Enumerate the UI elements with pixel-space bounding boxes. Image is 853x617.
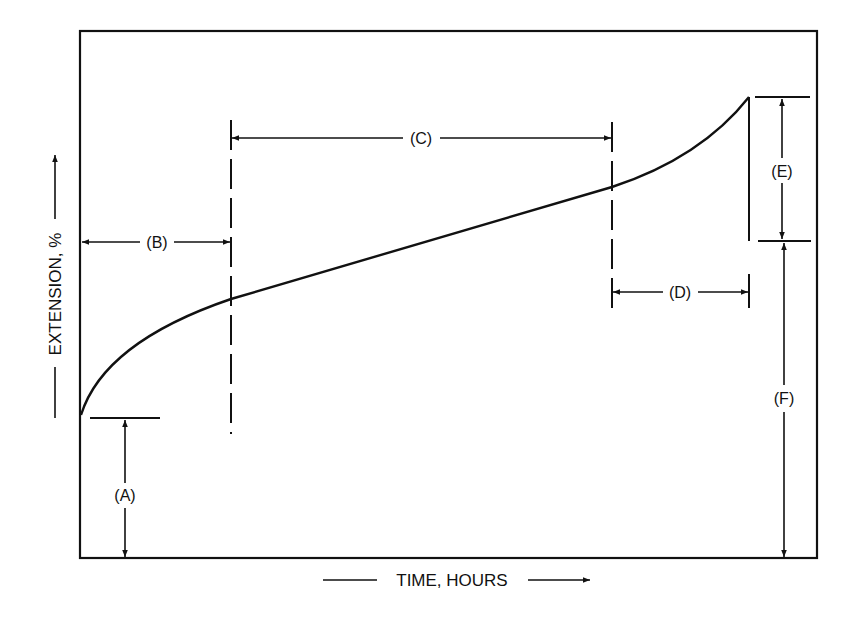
- x-axis-label: TIME, HOURS: [396, 571, 507, 590]
- label-f: (F): [774, 390, 794, 407]
- label-c: (C): [410, 130, 432, 147]
- y-axis-label-group: EXTENSION, %: [46, 155, 65, 418]
- label-e: (E): [771, 163, 792, 180]
- creep-curve-diagram: (A) (B) (C) (D) (E) (F) TIME, HOURS EXTE…: [0, 0, 853, 617]
- label-d: (D): [669, 284, 691, 301]
- label-b: (B): [146, 234, 167, 251]
- y-axis-label: EXTENSION, %: [46, 233, 65, 356]
- label-a: (A): [114, 487, 135, 504]
- plot-frame: [80, 31, 817, 558]
